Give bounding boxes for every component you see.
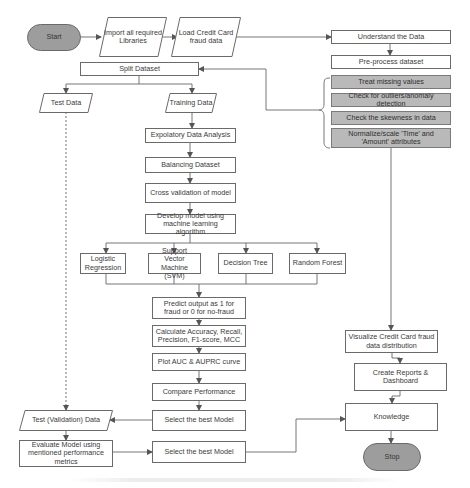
predict-output-node: Predict output as 1 for fraud or 0 for n… [152,297,246,319]
create-reports-label: Create Reports & Dashboard [357,369,444,386]
decision-tree-label: Decision Tree [224,259,268,267]
visualize-label: Visualize Credit Card fraud data distrib… [348,333,435,350]
plot-curves-label: Plot AUC & AUPRC curve [158,358,240,366]
evaluate-model-node: Evaluate Model using mentioned performan… [19,440,113,467]
balancing-label: Balancing Dataset [161,161,219,169]
load-data-node: Load Credit Card fraud data [171,17,241,57]
random-forest-label: Random Forest [293,259,343,267]
check-skewness-node: Check the skewness in data [331,111,451,125]
split-dataset-node: Split Dataset [80,62,199,76]
faded-caption-line [70,478,400,482]
understand-data-label: Understand the Data [358,33,424,41]
normalize-node: Normalize/scale 'Time' and 'Amount' attr… [331,128,451,148]
import-libraries-node: Import all required Libraries [99,17,167,57]
import-libraries-label: Import all required Libraries [101,29,165,46]
check-outliers-node: Check for outliers/anomaly detection [331,93,451,107]
load-data-label: Load Credit Card fraud data [173,29,239,46]
balancing-node: Balancing Dataset [145,157,236,173]
decision-tree-node: Decision Tree [218,253,273,274]
stop-label: Stop [385,453,400,461]
treat-missing-label: Treat missing values [358,78,424,86]
select-best-model-2-node: Select the best Model [152,441,246,463]
select-best-model-1-node: Select the best Model [152,410,246,431]
test-data-node: Test Data [39,93,93,113]
create-reports-node: Create Reports & Dashboard [354,363,447,391]
test-validation-label: Test (Validation) Data [32,416,100,424]
stop-terminal: Stop [363,443,421,471]
calculate-metrics-label: Calculate Accuracy, Recall, Precision, F… [155,328,243,345]
preprocess-node: Pre-process dataset [331,55,451,69]
visualize-node: Visualize Credit Card fraud data distrib… [345,330,438,353]
logistic-regression-label: Logistic Regression [83,255,123,272]
start-terminal: Start [27,24,81,51]
plot-curves-node: Plot AUC & AUPRC curve [152,353,246,371]
treat-missing-node: Treat missing values [331,75,451,89]
develop-model-label: Develop model using machine learning alg… [148,212,233,237]
cross-validation-node: Cross validation of model [145,183,236,203]
understand-data-node: Understand the Data [331,30,451,44]
test-data-label: Test Data [51,99,81,107]
knowledge-node: Knowledge [345,403,438,431]
eda-label: Expolatory Data Analysis [151,131,231,139]
test-validation-node: Test (Validation) Data [19,410,113,431]
svm-node: Support Vector Machine (SVM) [148,253,201,274]
svm-label: Support Vector Machine (SVM) [151,247,198,280]
training-data-node: Training Data [165,93,217,113]
training-data-label: Training Data [170,99,213,107]
normalize-label: Normalize/scale 'Time' and 'Amount' attr… [334,130,448,147]
develop-model-node: Develop model using machine learning alg… [145,214,236,234]
split-dataset-label: Split Dataset [119,65,160,73]
logistic-regression-node: Logistic Regression [80,253,126,274]
preprocess-label: Pre-process dataset [359,58,423,66]
calculate-metrics-node: Calculate Accuracy, Recall, Precision, F… [152,325,246,347]
cross-validation-label: Cross validation of model [150,189,231,197]
eda-node: Expolatory Data Analysis [145,128,236,143]
compare-performance-node: Compare Performance [152,383,246,401]
select-best-model-1-label: Select the best Model [164,416,233,424]
compare-performance-label: Compare Performance [163,388,236,396]
start-label: Start [46,33,61,41]
check-outliers-label: Check for outliers/anomaly detection [334,92,448,109]
knowledge-label: Knowledge [374,413,410,421]
select-best-model-2-label: Select the best Model [164,448,233,456]
check-skewness-label: Check the skewness in data [346,114,436,122]
evaluate-model-label: Evaluate Model using mentioned performan… [22,441,110,466]
predict-output-label: Predict output as 1 for fraud or 0 for n… [155,300,243,317]
random-forest-node: Random Forest [289,253,346,274]
